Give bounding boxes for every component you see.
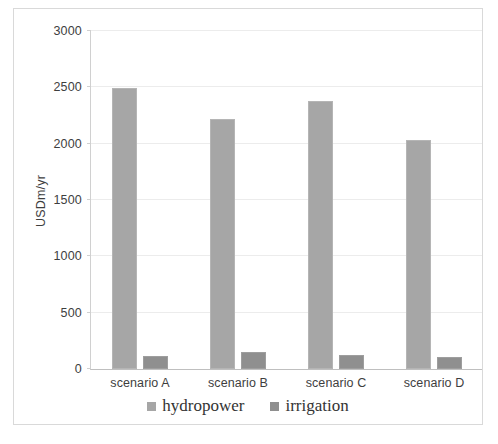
bar-group: scenario B bbox=[189, 31, 287, 369]
y-axis-tick-label: 500 bbox=[61, 306, 82, 320]
y-axis-tick-label: 1500 bbox=[53, 193, 82, 207]
x-axis-tick-label: scenario A bbox=[110, 376, 169, 390]
y-axis-tick-label: 0 bbox=[75, 362, 82, 376]
legend-item-hydropower[interactable]: hydropower bbox=[147, 396, 244, 416]
legend-swatch-icon bbox=[270, 402, 279, 411]
legend-swatch-icon bbox=[147, 402, 156, 411]
bar-hydropower-scenario-d[interactable] bbox=[406, 140, 431, 369]
bar-irrigation-scenario-c[interactable] bbox=[339, 355, 364, 369]
x-axis-tick-label: scenario D bbox=[404, 376, 465, 390]
y-axis-tick-label: 2000 bbox=[53, 137, 82, 151]
bar-irrigation-scenario-d[interactable] bbox=[437, 357, 462, 369]
chart-container: USDm/yr 050010001500200025003000 scenari… bbox=[13, 8, 483, 425]
y-axis-title: USDm/yr bbox=[34, 175, 48, 227]
y-axis-tick-label: 3000 bbox=[53, 24, 82, 38]
bar-group: scenario C bbox=[287, 31, 385, 369]
bar-hydropower-scenario-a[interactable] bbox=[112, 88, 137, 369]
legend-item-irrigation[interactable]: irrigation bbox=[270, 396, 348, 416]
plot-area: 050010001500200025003000 scenario Ascena… bbox=[90, 31, 482, 370]
bar-hydropower-scenario-c[interactable] bbox=[308, 101, 333, 369]
bar-hydropower-scenario-b[interactable] bbox=[210, 119, 235, 369]
y-axis-tick-label: 2500 bbox=[53, 80, 82, 94]
bar-group: scenario D bbox=[385, 31, 483, 369]
x-axis-tick-label: scenario C bbox=[306, 376, 367, 390]
legend-label: irrigation bbox=[285, 396, 348, 416]
x-axis-tick-label: scenario B bbox=[208, 376, 268, 390]
bar-irrigation-scenario-b[interactable] bbox=[241, 352, 266, 369]
y-axis-tick-label: 1000 bbox=[53, 249, 82, 263]
chart-legend: hydropowerirrigation bbox=[14, 396, 482, 416]
bar-irrigation-scenario-a[interactable] bbox=[143, 356, 168, 369]
legend-label: hydropower bbox=[162, 396, 244, 416]
bar-group: scenario A bbox=[91, 31, 189, 369]
